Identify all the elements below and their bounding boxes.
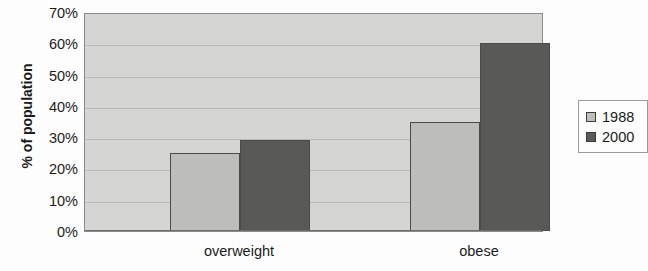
legend-item-2000: 2000 — [586, 127, 647, 147]
y-axis-tick-label: 20% — [26, 162, 78, 177]
legend-swatch-icon — [586, 112, 596, 122]
x-axis-category-label: obese — [459, 243, 499, 259]
x-axis-line — [85, 230, 542, 231]
y-axis-tick-labels: 70%60%50%40%30%20%10%0% — [26, 0, 78, 271]
y-axis-tick-label: 60% — [26, 37, 78, 52]
y-axis-tick-label: 30% — [26, 131, 78, 146]
y-axis-tick-label: 0% — [26, 225, 78, 240]
legend: 19882000 — [578, 100, 648, 153]
bar-overweight-1988 — [170, 153, 240, 231]
legend-swatch-icon — [586, 132, 596, 142]
bar-obese-1988 — [410, 122, 480, 232]
legend-label: 2000 — [602, 130, 634, 145]
legend-label: 1988 — [602, 110, 634, 125]
x-axis-category-label: overweight — [204, 243, 274, 259]
bar-obese-2000 — [480, 43, 550, 231]
legend-item-1988: 1988 — [586, 107, 647, 127]
y-axis-tick-label: 70% — [26, 6, 78, 21]
y-axis-tick-label: 40% — [26, 100, 78, 115]
plot-area — [84, 13, 543, 232]
gridline — [85, 77, 542, 78]
bar-overweight-2000 — [240, 140, 310, 231]
gridline — [85, 45, 542, 46]
gridline — [85, 108, 542, 109]
y-axis-tick-label: 10% — [26, 194, 78, 209]
y-axis-tick-label: 50% — [26, 69, 78, 84]
